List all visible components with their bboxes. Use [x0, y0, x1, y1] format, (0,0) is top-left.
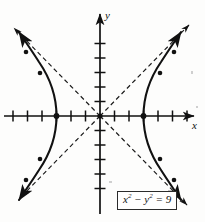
- x-axis-label: x: [192, 120, 197, 131]
- right-branch-lower: [144, 116, 182, 200]
- hyperbola-figure: x y x2 − y2 = 9: [0, 0, 205, 222]
- left-branch-lower: [19, 116, 57, 200]
- origin-point: [97, 113, 102, 118]
- curve-point: [24, 50, 29, 55]
- curve-point: [172, 50, 177, 55]
- y-axis-label: y: [105, 10, 110, 21]
- scan-speck: [196, 106, 198, 108]
- asymptote-up-left: [14, 28, 100, 116]
- right-branch-upper: [144, 32, 182, 116]
- curve-point: [158, 71, 163, 76]
- vertex-point-right: [141, 113, 147, 119]
- curve-point: [172, 178, 177, 183]
- equation-minus: −: [131, 193, 144, 205]
- scan-speck: [109, 181, 112, 183]
- equation-equals: = 9: [153, 193, 171, 205]
- left-branch-upper: [19, 32, 57, 116]
- vertex-point-left: [54, 113, 60, 119]
- curve-point: [158, 157, 163, 162]
- hyperbola-plot: [0, 0, 205, 222]
- equation-label-box: x2 − y2 = 9: [117, 191, 177, 210]
- scan-speck: [191, 71, 193, 74]
- curve-point: [38, 71, 43, 76]
- asymptote-down-left: [21, 116, 100, 197]
- curve-point: [24, 178, 29, 183]
- curve-point: [38, 157, 43, 162]
